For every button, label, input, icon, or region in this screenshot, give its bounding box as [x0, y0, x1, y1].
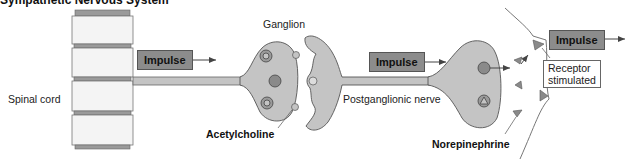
nerve-diagram	[0, 0, 633, 159]
impulse-box-effector: Impulse	[549, 30, 605, 50]
preganglionic-fiber	[133, 77, 245, 85]
impulse-box-postganglionic: Impulse	[369, 52, 425, 72]
postganglionic-neuron	[428, 41, 501, 128]
spinal-column	[72, 10, 133, 149]
receptor-line1: Receptor	[548, 62, 596, 74]
ganglion-label: Ganglion	[263, 18, 305, 30]
receptor-line2: stimulated	[548, 74, 596, 86]
norepinephrine-label: Norepinephrine	[432, 138, 510, 150]
receptor-stimulated-label: Receptor stimulated	[543, 60, 601, 88]
postganglionic-nerve-label: Postganglionic nerve	[343, 93, 440, 105]
acetylcholine-label: Acetylcholine	[206, 128, 274, 140]
postganglionic-dendrite	[305, 36, 430, 130]
spinal-cord-label: Spinal cord	[8, 93, 61, 105]
impulse-box-preganglionic: Impulse	[137, 50, 193, 70]
